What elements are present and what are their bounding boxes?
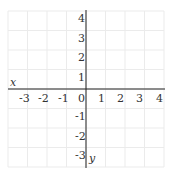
y-tick-label: -2	[75, 131, 86, 142]
y-tick-label: 1	[78, 72, 85, 83]
x-tick-label: -3	[19, 93, 30, 104]
x-tick-label: 2	[117, 93, 124, 104]
x-tick-label: -1	[58, 93, 69, 104]
y-axis-label: y	[89, 153, 95, 164]
y-tick-label: -1	[75, 111, 86, 122]
x-axis-label: x	[10, 77, 16, 88]
y-tick-label: 3	[78, 33, 85, 44]
y-tick-label: 2	[78, 52, 85, 63]
x-tick-label: 1	[98, 93, 105, 104]
x-tick-label: 0	[78, 93, 85, 104]
y-tick-label: -3	[75, 150, 86, 161]
x-tick-label: -2	[38, 93, 49, 104]
x-tick-label: 4	[156, 93, 163, 104]
x-tick-label: 3	[136, 93, 143, 104]
y-tick-label: 4	[78, 13, 85, 24]
